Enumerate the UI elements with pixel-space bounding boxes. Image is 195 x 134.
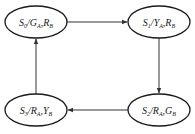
state-diagram: S0/GA,RB S1/YA,RB S2/RA,GB S3/RA,YB — [0, 0, 195, 134]
node-label: S1/YA,RB — [143, 17, 176, 29]
state-node-s0: S0/GA,RB — [5, 6, 67, 38]
state-node-s2: S2/RA,GB — [128, 94, 190, 126]
state-node-s3: S3/RA,YB — [5, 94, 67, 126]
node-label: S3/RA,YB — [20, 105, 53, 117]
state-node-s1: S1/YA,RB — [128, 6, 190, 38]
